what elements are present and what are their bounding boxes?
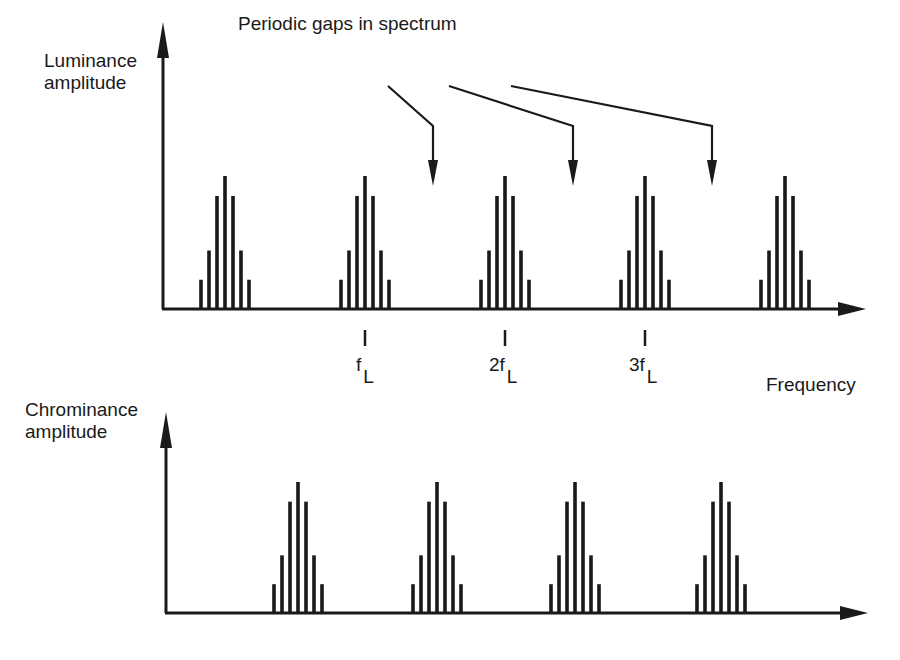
spectral-line xyxy=(703,555,707,613)
spectral-line xyxy=(427,502,431,613)
spectral-line xyxy=(597,584,601,613)
spectral-line xyxy=(619,280,623,309)
spectral-line xyxy=(659,250,663,309)
spectral-line xyxy=(589,555,593,613)
spectral-line xyxy=(320,584,324,613)
spectral-line xyxy=(791,196,795,309)
spectral-line xyxy=(280,555,284,613)
spectral-line xyxy=(807,280,811,309)
x-axis-arrowhead-icon xyxy=(840,606,868,620)
spectral-line xyxy=(288,502,292,613)
spectral-line xyxy=(527,280,531,309)
spectral-line xyxy=(799,250,803,309)
spectral-line xyxy=(743,584,747,613)
spectral-line xyxy=(304,502,308,613)
tick-prefix: f xyxy=(356,354,361,375)
x-axis-arrowhead-icon xyxy=(838,302,866,316)
y-axis-arrowhead-icon xyxy=(160,412,172,448)
spectral-line xyxy=(459,584,463,613)
tick-subscript: L xyxy=(647,366,658,387)
tick-subscript: L xyxy=(507,366,518,387)
spectral-line xyxy=(627,250,631,309)
spectral-line xyxy=(443,502,447,613)
spectral-line xyxy=(643,176,647,309)
spectral-line xyxy=(239,250,243,309)
spectral-line xyxy=(231,196,235,309)
luminance-spectrum xyxy=(199,176,811,309)
gap-pointer-arrows xyxy=(388,86,712,170)
chrominance-axis-label: Chrominance amplitude xyxy=(25,399,138,443)
harmonic-ticks xyxy=(365,330,645,346)
diagram-title: Periodic gaps in spectrum xyxy=(238,13,457,35)
spectral-line xyxy=(199,280,203,309)
spectral-line xyxy=(479,280,483,309)
spectral-line xyxy=(339,280,343,309)
tick-label-3fL: 3fL xyxy=(629,354,657,376)
spectral-line xyxy=(411,584,415,613)
spectral-line xyxy=(651,196,655,309)
spectral-line xyxy=(565,502,569,613)
spectral-line xyxy=(727,502,731,613)
spectral-line xyxy=(511,196,515,309)
arrow-down-icon xyxy=(568,160,578,186)
spectral-line xyxy=(695,584,699,613)
chrominance-label-line1: Chrominance xyxy=(25,399,138,421)
spectral-line xyxy=(347,250,351,309)
spectral-line xyxy=(495,196,499,309)
spectral-line xyxy=(549,584,553,613)
luminance-label-line2: amplitude xyxy=(44,72,137,94)
spectral-line xyxy=(296,482,300,613)
spectral-line xyxy=(247,280,251,309)
spectral-line xyxy=(667,280,671,309)
spectral-line xyxy=(735,555,739,613)
tick-prefix: 2f xyxy=(489,354,505,375)
spectral-line xyxy=(759,280,763,309)
spectrum-diagram xyxy=(0,0,900,660)
spectral-line xyxy=(711,502,715,613)
frequency-axis-label: Frequency xyxy=(766,374,856,396)
spectral-line xyxy=(451,555,455,613)
gap-arrow-3 xyxy=(511,86,712,170)
spectral-line xyxy=(635,196,639,309)
spectral-line xyxy=(519,250,523,309)
gap-arrow-1 xyxy=(388,86,433,170)
spectral-line xyxy=(371,196,375,309)
arrow-down-icon xyxy=(707,160,717,186)
luminance-axis-label: Luminance amplitude xyxy=(44,50,137,94)
spectral-line xyxy=(767,250,771,309)
tick-label-fL: fL xyxy=(356,354,374,376)
tick-label-2fL: 2fL xyxy=(489,354,517,376)
spectral-line xyxy=(503,176,507,309)
spectral-line xyxy=(312,555,316,613)
y-axis-arrowhead-icon xyxy=(157,22,169,58)
spectral-line xyxy=(387,280,391,309)
spectral-line xyxy=(775,196,779,309)
spectral-line xyxy=(363,176,367,309)
spectral-line xyxy=(557,555,561,613)
arrow-down-icon xyxy=(428,160,438,186)
spectral-line xyxy=(207,250,211,309)
spectral-line xyxy=(719,482,723,613)
luminance-label-line1: Luminance xyxy=(44,50,137,72)
spectral-line xyxy=(215,196,219,309)
spectral-line xyxy=(487,250,491,309)
chrominance-axes xyxy=(160,412,868,620)
spectral-line xyxy=(272,584,276,613)
gap-arrow-2 xyxy=(449,86,573,170)
chrominance-spectrum xyxy=(272,482,747,613)
spectral-line xyxy=(379,250,383,309)
spectral-line xyxy=(783,176,787,309)
tick-subscript: L xyxy=(363,366,374,387)
tick-prefix: 3f xyxy=(629,354,645,375)
spectral-line xyxy=(355,196,359,309)
spectral-line xyxy=(581,502,585,613)
gap-arrowheads xyxy=(428,160,717,186)
chrominance-label-line2: amplitude xyxy=(25,421,138,443)
spectral-line xyxy=(419,555,423,613)
spectral-line xyxy=(223,176,227,309)
spectral-line xyxy=(573,482,577,613)
spectral-line xyxy=(435,482,439,613)
